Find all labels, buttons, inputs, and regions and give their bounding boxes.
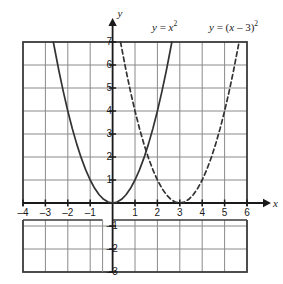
x-tick-label: 6: [244, 208, 250, 218]
x-tick-label: –3: [40, 208, 51, 218]
gridlines-group: [23, 42, 247, 272]
curve-label-y-equals-x-squared: y = x2: [152, 22, 177, 33]
graph-figure: –4–3–2–1123456 7654321–1–2–3 x y y = x2 …: [0, 0, 283, 284]
x-tick-label: –2: [62, 208, 73, 218]
x-axis-label: x: [273, 198, 278, 209]
y-axis-arrowhead: [108, 18, 116, 26]
x-tick-label: 1: [132, 208, 138, 218]
x-axis-arrowhead: [263, 199, 271, 207]
axes-group: [23, 18, 271, 272]
y-axis-label: y: [118, 8, 123, 19]
x-tick-label: 2: [155, 208, 161, 218]
x-tick-label: –1: [85, 208, 96, 218]
x-tick-label: –4: [17, 208, 28, 218]
x-tick-label: 4: [199, 208, 205, 218]
x-tick-label: 3: [177, 208, 183, 218]
curves-group: [53, 42, 239, 203]
curve-label-y-equals-x-minus-3-squared: y = (x – 3)2: [209, 22, 258, 33]
coordinate-plane-svg: [0, 0, 283, 284]
x-tick-label: 5: [222, 208, 228, 218]
